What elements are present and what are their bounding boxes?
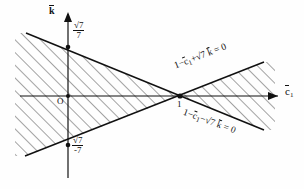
fraction-denominator: 7 <box>73 31 84 40</box>
origin-dot <box>66 94 70 98</box>
x-tick-label-1: 1 <box>177 100 182 109</box>
y-axis-label: k <box>49 6 55 16</box>
figure-container: k c1 O 1 √7 7 √7 -7 1−c1+√7 k̄ = 0 1−c1−… <box>0 0 304 189</box>
origin-label: O <box>57 97 64 106</box>
x-axis-label: c1 <box>285 86 293 97</box>
fraction-denominator: -7 <box>72 146 83 155</box>
plot-canvas <box>0 0 304 189</box>
y-axis-label-text: k <box>49 6 55 16</box>
fraction-positive: √7 7 <box>73 21 84 40</box>
upper-y-intercept-dot <box>66 45 71 50</box>
x-axis-label-subscript: 1 <box>290 91 294 99</box>
y-tick-label-positive: √7 7 <box>73 21 84 40</box>
equation-lower-radical: √7 <box>204 115 217 128</box>
fraction-negative: √7 -7 <box>72 136 83 155</box>
intersection-dot <box>177 93 182 98</box>
lower-y-intercept-dot <box>66 143 71 148</box>
y-tick-label-negative: √7 -7 <box>72 136 83 155</box>
